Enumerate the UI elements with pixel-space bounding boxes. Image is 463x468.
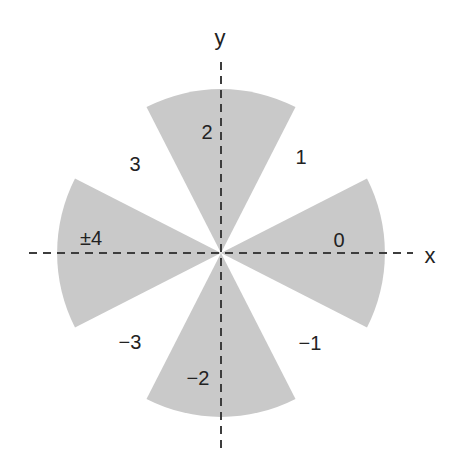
sector-diagram: x y 0 2 ±4 −2 1 3 −3 −1 [0, 0, 463, 468]
x-axis-label: x [425, 243, 436, 268]
sector-label-east: 0 [333, 229, 344, 251]
gap-label-southeast: −1 [299, 332, 322, 354]
gap-label-southwest: −3 [119, 331, 142, 353]
sector-label-south: −2 [187, 367, 210, 389]
gap-label-northeast: 1 [295, 146, 306, 168]
y-axis-label: y [215, 25, 226, 50]
gap-label-northwest: 3 [129, 153, 140, 175]
sector-label-north: 2 [201, 121, 212, 143]
sector-label-west: ±4 [80, 227, 102, 249]
